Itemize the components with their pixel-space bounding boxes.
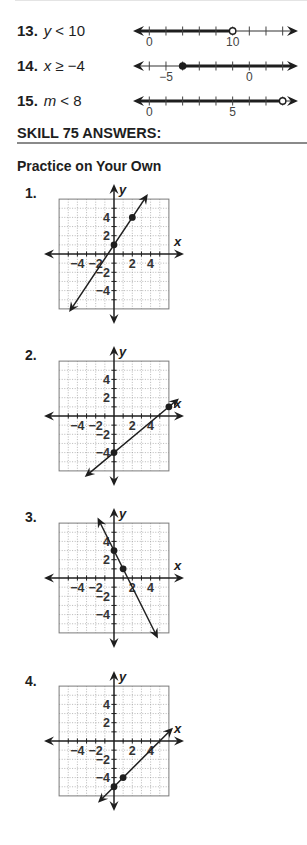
coordinate-graph-3: −4−22442−2−4xy [34, 500, 199, 658]
y-tick-label: 2 [103, 553, 110, 567]
inequality-variable: m [44, 92, 57, 109]
section-subtitle: Practice on Your Own [17, 158, 161, 174]
number-line-svg: −50 [128, 52, 304, 86]
x-tick-label: 4 [147, 257, 154, 271]
y-tick-label: −2 [96, 428, 110, 442]
y-axis-title: y [118, 344, 127, 359]
number-line-svg: 010 [128, 17, 304, 51]
plotted-point [166, 403, 173, 410]
x-tick-label: 4 [147, 581, 154, 595]
line-end-arrow-icon [139, 194, 148, 205]
section-title: SKILL 75 ANSWERS: [17, 125, 161, 141]
plotted-point [111, 783, 118, 790]
graph-svg: −4−22442−2−4xy [34, 500, 199, 658]
inequality-15: 15.m< 8 [17, 92, 82, 110]
y-tick-label: −4 [96, 284, 110, 298]
y-tick-label: 4 [103, 211, 110, 225]
problem-number: 15. [17, 92, 38, 109]
coordinate-graph-1: −4−22442−2−4xy [34, 176, 199, 334]
x-tick-label: −4 [70, 419, 84, 433]
x-axis-title: x [173, 721, 182, 736]
coordinate-graph-2: −4−22442−2−4xy [34, 338, 199, 496]
inequality-relation: ≥ −4 [55, 57, 85, 74]
plotted-point [111, 241, 118, 248]
y-tick-label: 2 [103, 229, 110, 243]
inequality-relation: < 8 [60, 92, 81, 109]
tick-label: 10 [226, 35, 240, 49]
plotted-point [111, 449, 118, 456]
graph-svg: −4−22442−2−4xy [34, 176, 199, 334]
closed-endpoint-icon [179, 62, 187, 70]
number-line-15: 05 [128, 87, 304, 121]
x-axis-title: x [173, 234, 182, 249]
top-divider [15, 0, 307, 1]
inequality-variable: y [44, 22, 52, 39]
plotted-point [129, 214, 136, 221]
tick-label: 0 [146, 35, 153, 49]
number-line-13: 010 [128, 17, 304, 51]
x-tick-label: 2 [129, 744, 136, 758]
line-start-arrow-icon [69, 301, 78, 312]
plotted-point [111, 547, 118, 554]
inequality-13: 13.y< 10 [17, 22, 85, 40]
inequality-relation: < 10 [55, 22, 85, 39]
graph-svg: −4−22442−2−4xy [34, 338, 199, 496]
tick-label: 0 [246, 70, 253, 84]
problem-number: 13. [17, 22, 38, 39]
y-tick-label: 2 [103, 716, 110, 730]
x-tick-label: −4 [70, 257, 84, 271]
section-underline [17, 142, 307, 144]
y-tick-label: −4 [96, 608, 110, 622]
problem-number: 14. [17, 57, 38, 74]
coordinate-graph-4: −4−22442−2−4xy [34, 663, 199, 821]
y-axis-title: y [118, 669, 127, 684]
plotted-point [120, 774, 127, 781]
x-tick-label: 2 [129, 257, 136, 271]
tick-label: −5 [159, 70, 173, 84]
x-tick-label: 2 [129, 419, 136, 433]
y-tick-label: −4 [96, 771, 110, 785]
graph-svg: −4−22442−2−4xy [34, 663, 199, 821]
y-axis-title: y [118, 506, 127, 521]
tick-label: 5 [229, 105, 236, 119]
y-tick-label: 2 [103, 391, 110, 405]
y-axis-title: y [118, 182, 127, 197]
x-tick-label: −4 [70, 744, 84, 758]
tick-label: 0 [146, 105, 153, 119]
y-tick-label: −2 [96, 590, 110, 604]
inequality-variable: x [44, 57, 52, 74]
number-line-14: −50 [128, 52, 304, 86]
y-tick-label: −2 [96, 753, 110, 767]
open-endpoint-icon [229, 28, 235, 34]
open-endpoint-icon [279, 98, 285, 104]
plotted-point [120, 565, 127, 572]
inequality-14: 14.x≥ −4 [17, 57, 85, 75]
x-axis-title: x [173, 558, 182, 573]
y-tick-label: 4 [103, 698, 110, 712]
number-line-svg: 05 [128, 87, 304, 121]
x-tick-label: −4 [70, 581, 84, 595]
y-tick-label: 4 [103, 373, 110, 387]
